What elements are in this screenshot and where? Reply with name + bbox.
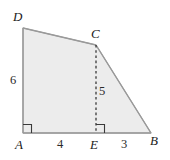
figure-canvas: [0, 0, 170, 160]
vertex-label-c: C: [91, 27, 100, 40]
measure-label-ce: 5: [99, 85, 105, 98]
geometry-figure: D C A E B 6 4 5 3: [0, 0, 170, 160]
vertex-label-a: A: [15, 138, 23, 151]
measure-label-ad: 6: [10, 74, 16, 87]
trapezoid-abcd-shape: [23, 28, 151, 133]
vertex-label-d: D: [13, 10, 22, 23]
vertex-label-e: E: [90, 138, 98, 151]
vertex-label-b: B: [150, 134, 158, 147]
measure-label-eb: 3: [121, 138, 127, 151]
measure-label-ae: 4: [57, 138, 63, 151]
